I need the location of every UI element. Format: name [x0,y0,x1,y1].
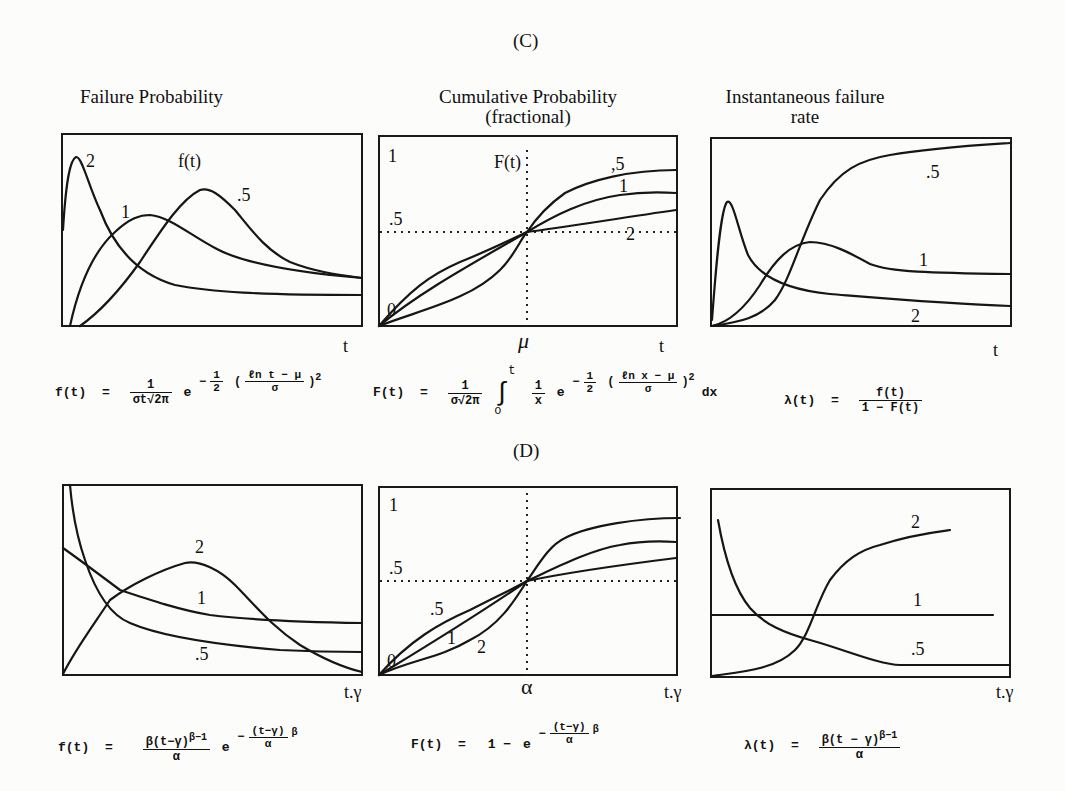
top-hazard-curves [712,143,1010,326]
exp-base: e [557,385,565,400]
formula-weibull-pdf: f(t) = β(t−γ)β−1 α e −(t−γ)αβ [58,732,298,764]
x-axis-label: t [993,340,998,360]
curve-.5 [379,558,676,675]
section-d-label: (D) [513,440,539,462]
curve-1 [63,548,362,623]
curve-label-1: 1 [619,176,628,196]
curve-label-2: 2 [911,306,920,326]
fraction: β(t − γ)β−1 α [819,730,901,762]
y-tick-.5: .5 [389,558,403,578]
curve-label-2: 2 [626,224,635,244]
y-tick-0: 0 [387,300,396,320]
exp-base: e [183,385,191,400]
fraction: β(t−γ)β−1 α [143,732,210,764]
formula-lhs: f(t) [55,385,86,400]
formula-lhs: F(t) [411,737,442,752]
bottom-hazard-curves [711,520,1010,676]
y-tick-.5: .5 [389,209,403,229]
curve-2 [712,202,1010,320]
formula-lhs: λ(t) [744,738,775,753]
exponent: −12 (ℓn t − μσ)2 [199,375,321,389]
formula-lhs: λ(t) [784,393,815,408]
x-axis-label: t [659,336,664,356]
formula-lognormal-pdf: f(t) = 1 σt√2π e −12 (ℓn t − μσ)2 [55,378,321,407]
exponent: −12 (ℓn x − μσ)2 [572,375,701,389]
formula-lognormal-hazard: λ(t) = f(t) 1 − F(t) [784,386,926,415]
x-axis-label: t.γ [344,682,362,702]
curve-label-1: 1 [913,590,922,610]
formula-weibull-hazard: λ(t) = β(t − γ)β−1 α [744,730,904,762]
formula-equals: = [831,393,839,408]
formula-equals: = [102,385,110,400]
exponent: −(t−γ)αβ [237,730,297,744]
function-label: f(t) [178,151,201,172]
exp-base: e [523,737,531,752]
exp-base: e [222,740,230,755]
curve-.5 [718,520,1010,665]
x-axis-label: t.γ [664,682,682,702]
x-axis-label: t.γ [996,682,1014,702]
curve-label-1: 1 [121,202,130,222]
curve-2 [63,562,362,674]
curve-.5 [70,485,362,652]
curve-label-2: 2 [86,151,95,171]
fraction: 1 σt√2π [130,378,172,407]
curve-label-.5: .5 [911,639,925,659]
curve-label-1: 1 [447,628,456,648]
formula-equals: = [105,740,113,755]
formula-lognormal-cdf: F(t) = 1 σ√2π ∫to 1 x e −12 (ℓn x − μσ)2… [373,378,717,408]
curve-label-1: 1 [919,250,928,270]
formula-equals: = [458,737,466,752]
curve-.5 [712,143,1010,326]
curve-label-.5: .5 [926,162,940,182]
bottom-cdf-curves [379,493,680,676]
fraction: 1 σ√2π [448,379,483,408]
bottom-pdf-curves [63,485,362,674]
curve-label-2: 2 [195,537,204,557]
y-tick-1: 1 [388,146,397,166]
y-tick-1: 1 [389,495,398,515]
fraction: 1 x [532,379,545,408]
function-label: F(t) [494,152,521,173]
fraction: f(t) 1 − F(t) [859,386,923,415]
integral-sign: ∫to [494,378,510,408]
dx: dx [702,385,718,400]
x-marker-mu: μ [517,328,529,353]
curve-label-2: 2 [477,637,486,657]
curve-label-.5: .5 [430,599,444,619]
formula-lhs: F(t) [373,385,404,400]
curve-label-1: 1 [197,588,206,608]
formula-weibull-cdf: F(t) = 1 − e −(t−γ)αβ [411,732,599,757]
formula-lhs: f(t) [58,740,89,755]
curve-label-.5: .5 [237,185,251,205]
curve-label-.5: .5 [195,644,209,664]
x-axis-label: t [343,336,348,356]
one-minus: 1 − [488,737,511,752]
curve-label-.5: ,5 [611,154,625,174]
x-marker-alpha: α [521,674,533,699]
formula-equals: = [420,385,428,400]
top-pdf-curves [63,157,362,326]
formula-equals: = [791,738,799,753]
y-tick-0: 0 [387,651,396,671]
curve-label-2: 2 [911,512,920,532]
exponent: −(t−γ)αβ [539,727,599,741]
curve-2 [379,518,680,675]
